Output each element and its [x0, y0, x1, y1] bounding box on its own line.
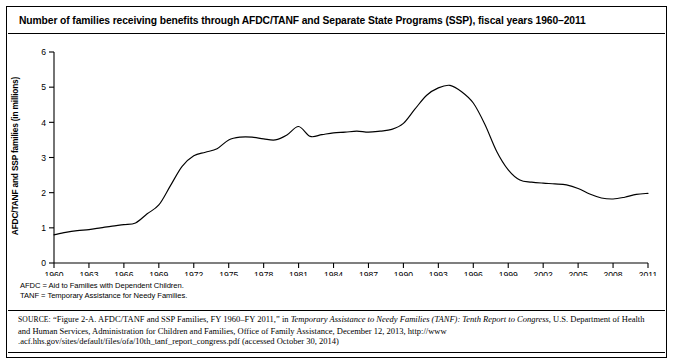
source-block: SOURCE: “Figure 2-A. AFDC/TANF and SSP F… — [18, 314, 656, 347]
x-axis-tick-label: 1963 — [79, 270, 98, 276]
x-axis-tick-label: 1993 — [429, 270, 448, 276]
x-axis-tick-label: 1978 — [254, 270, 273, 276]
y-axis-tick-label: 4 — [41, 118, 46, 128]
data-line-series-0 — [54, 85, 648, 235]
x-axis-tick-label: 1996 — [464, 270, 483, 276]
x-axis-tick-label: 1987 — [359, 270, 378, 276]
x-axis-tick-label: 2008 — [603, 270, 622, 276]
note-tanf: TANF = Temporary Assistance for Needy Fa… — [20, 291, 187, 301]
source-italic-title: Temporary Assistance to Needy Families (… — [291, 314, 551, 324]
figure-notes: AFDC = Aid to Families with Dependent Ch… — [20, 281, 187, 301]
line-chart: 0123456196019631966196919721975197819811… — [8, 36, 665, 276]
y-axis-tick-label: 5 — [41, 82, 46, 92]
plot-area: AFDC/TANF and SSP families (in millions)… — [8, 36, 665, 276]
note-afdc: AFDC = Aid to Families with Dependent Ch… — [20, 281, 187, 291]
source-label: SOURCE: — [18, 315, 51, 324]
x-axis-tick-label: 1975 — [219, 270, 238, 276]
y-axis-tick-label: 6 — [41, 47, 46, 57]
x-axis-tick-label: 1960 — [44, 270, 63, 276]
y-axis-tick-label: 2 — [41, 188, 46, 198]
source-text-part1: “Figure 2-A. AFDC/TANF and SSP Families,… — [51, 314, 291, 324]
figure-container: Number of families receiving benefits th… — [0, 0, 673, 364]
page-title: Number of families receiving benefits th… — [8, 15, 586, 26]
x-axis-tick-label: 1981 — [289, 270, 308, 276]
x-axis-tick-label: 2002 — [534, 270, 553, 276]
source-divider-bottom — [8, 352, 665, 353]
y-axis-tick-label: 3 — [41, 153, 46, 163]
source-divider-top — [8, 310, 665, 311]
x-axis-tick-label: 1990 — [394, 270, 413, 276]
figure-title-bar: Number of families receiving benefits th… — [8, 8, 665, 34]
x-axis-tick-label: 1969 — [149, 270, 168, 276]
x-axis-tick-label: 1966 — [114, 270, 133, 276]
x-axis-tick-label: 2005 — [569, 270, 588, 276]
x-axis-tick-label: 1999 — [499, 270, 518, 276]
x-axis-tick-label: 1972 — [184, 270, 203, 276]
x-axis-tick-label: 1984 — [324, 270, 343, 276]
y-axis-tick-label: 0 — [41, 258, 46, 268]
x-axis-tick-label: 2011 — [639, 270, 658, 276]
y-axis-tick-label: 1 — [41, 223, 46, 233]
